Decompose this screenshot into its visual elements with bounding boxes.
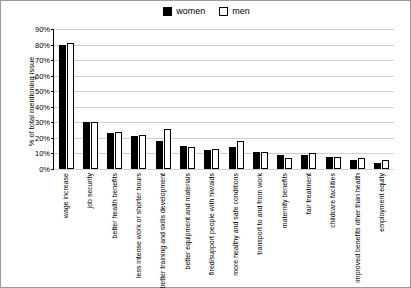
x-label-cell: childcare facilities [320,171,344,283]
bar-men [237,141,244,169]
bar-men [334,157,341,169]
bar-men [115,132,122,169]
x-label-cell: wage increase [53,171,77,283]
bar-men [212,149,219,169]
y-tick-label: 50% [35,87,50,96]
y-tick-label: 0% [39,165,50,174]
y-tick-label: 70% [35,56,50,65]
bar-women [180,146,187,169]
bar-men [67,43,74,169]
x-axis-tick-label: better equipment and materials [183,173,190,270]
legend-entry-women: women [163,7,205,16]
x-axis-tick-label: improved benefits other than health [353,173,360,283]
x-axis-tick-label: fired/support people with hiv/aids [207,173,214,275]
legend-swatch-men [219,7,228,16]
bar-women [326,157,333,169]
x-label-cell: transport to and from work [247,171,271,283]
gridline [54,169,394,170]
bar-group [200,29,224,169]
bar-women [277,155,284,169]
x-axis-tick-label: wage increase [62,173,69,218]
bar-men [382,160,389,169]
bar-men [261,152,268,169]
x-axis-tick-label: better training and skills development [159,173,166,288]
bar-group [297,29,321,169]
y-tick-label: 20% [35,133,50,142]
bar-women [83,122,90,169]
bar-women [253,152,260,169]
x-label-cell: employment equity [369,171,393,283]
bar-men [358,158,365,169]
y-tick-mark [51,169,54,170]
x-axis-tick-label: better health benefits [110,173,117,238]
y-tick-label: 10% [35,149,50,158]
chart-legend: women men [1,7,411,16]
x-label-cell: better equipment and materials [174,171,198,283]
bar-women [301,155,308,169]
bar-group [321,29,345,169]
x-axis-tick-label: more healthy and safe conditions [232,173,239,276]
bar-group [78,29,102,169]
x-label-cell: better training and skills development [150,171,174,283]
x-label-cell: fired/support people with hiv/aids [199,171,223,283]
bar-women [204,150,211,169]
x-label-cell: better health benefits [102,171,126,283]
y-tick-label: 40% [35,102,50,111]
bar-men [91,122,98,169]
x-label-cell: improved benefits other than health [344,171,368,283]
bar-group [54,29,78,169]
bar-women [229,147,236,169]
x-axis-labels: wage increasejob securitybetter health b… [53,171,393,283]
bar-men [164,129,171,169]
y-tick-label: 80% [35,40,50,49]
bar-group [175,29,199,169]
bar-men [309,153,316,169]
x-axis-tick-label: transport to and from work [256,173,263,255]
bar-group [151,29,175,169]
bar-women [156,141,163,169]
x-label-cell: maternity benefits [272,171,296,283]
bar-series-container [54,29,394,169]
y-tick-label: 60% [35,71,50,80]
y-tick-label: 90% [35,25,50,34]
bar-chart: women men % of total mentioning issue 0%… [0,0,411,288]
bar-women [59,45,66,169]
x-label-cell: less intense work or shorter hours [126,171,150,283]
bar-men [139,135,146,169]
bar-group [370,29,394,169]
x-axis-tick-label: maternity benefits [280,173,287,228]
bar-women [107,133,114,169]
x-label-cell: fair treatment [296,171,320,283]
x-axis-tick-label: childcare facilities [329,173,336,228]
x-axis-tick-label: job security [86,173,93,208]
bar-group [127,29,151,169]
legend-label-men: men [232,7,250,16]
x-label-cell: more healthy and safe conditions [223,171,247,283]
legend-label-women: women [176,7,205,16]
bar-men [188,147,195,169]
bar-men [285,158,292,169]
x-label-cell: job security [77,171,101,283]
x-axis-tick-label: less intense work or shorter hours [134,173,141,278]
y-tick-label: 30% [35,118,50,127]
x-axis-tick-label: fair treatment [304,173,311,214]
plot-area: 0%10%20%30%40%50%60%70%80%90% [53,29,394,170]
x-axis-tick-label: employment equity [377,173,384,232]
bar-group [103,29,127,169]
bar-group [248,29,272,169]
bar-group [345,29,369,169]
bar-group [224,29,248,169]
legend-entry-men: men [219,7,250,16]
legend-swatch-women [163,7,172,16]
bar-women [131,136,138,169]
bar-women [350,160,357,169]
bar-women [374,163,381,169]
bar-group [273,29,297,169]
